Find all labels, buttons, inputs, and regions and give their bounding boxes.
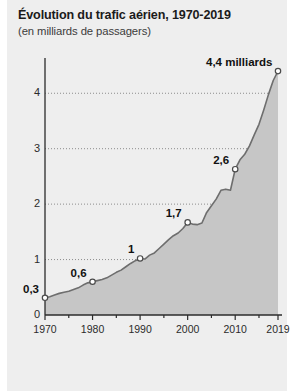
y-axis-tick-label: 0 xyxy=(18,308,40,320)
data-point-label: 0,3 xyxy=(23,283,39,295)
data-point-marker xyxy=(185,220,190,225)
data-point-marker xyxy=(90,279,95,284)
y-axis-tick-label: 2 xyxy=(18,197,40,209)
x-axis-tick-label: 1990 xyxy=(118,323,162,335)
data-point-marker xyxy=(42,295,47,300)
data-point-marker xyxy=(275,68,280,73)
data-point-marker xyxy=(137,256,142,261)
x-axis-ticks xyxy=(45,315,278,320)
data-point-label: 1 xyxy=(128,243,134,255)
x-axis-tick-label: 1970 xyxy=(23,323,67,335)
x-axis-tick-label: 2000 xyxy=(166,323,210,335)
data-point-label: 0,6 xyxy=(71,267,87,279)
data-point-label: 2,6 xyxy=(213,154,229,166)
data-point-label: 4,4 milliards xyxy=(206,56,272,68)
y-axis-tick-label: 1 xyxy=(18,253,40,265)
x-axis-tick-label: 2019 xyxy=(256,323,294,335)
x-axis-tick-label: 2010 xyxy=(213,323,257,335)
chart-figure: Évolution du trafic aérien, 1970-2019 (e… xyxy=(7,0,287,391)
y-axis-tick-label: 3 xyxy=(18,142,40,154)
data-point-marker xyxy=(233,167,238,172)
x-axis-tick-label: 1980 xyxy=(71,323,115,335)
y-axis-tick-label: 4 xyxy=(18,86,40,98)
data-point-label: 1,7 xyxy=(166,207,182,219)
